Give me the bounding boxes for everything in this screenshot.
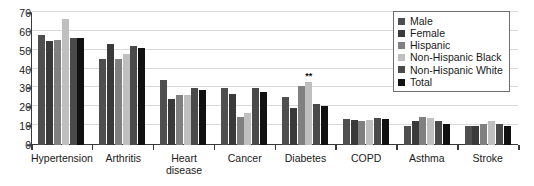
- legend-item[interactable]: Non-Hispanic Black: [398, 52, 503, 64]
- y-tick-label: 10: [5, 121, 31, 132]
- bar: [160, 80, 167, 145]
- bar: [404, 126, 411, 145]
- x-axis-labels: HypertensionArthritisHeart diseaseCancer…: [31, 152, 518, 177]
- bar: [99, 59, 106, 145]
- y-tick-label: 40: [5, 64, 31, 75]
- legend-swatch-icon: [398, 42, 405, 49]
- bar: [115, 59, 122, 145]
- bar: [374, 118, 381, 145]
- bar: [313, 104, 320, 145]
- bar: [472, 126, 479, 145]
- bar: [199, 90, 206, 145]
- legend-item[interactable]: Non-Hispanic White: [398, 64, 503, 76]
- legend-swatch-icon: [398, 79, 405, 86]
- bar-group: [153, 13, 214, 145]
- bar: [435, 121, 442, 146]
- x-axis-label: COPD: [336, 152, 397, 177]
- legend-item[interactable]: Female: [398, 27, 503, 39]
- bar-annotation: **: [305, 72, 312, 81]
- bar: [244, 113, 251, 145]
- legend-label: Male: [410, 16, 433, 27]
- bar: [366, 120, 373, 145]
- y-tick-label: 70: [5, 8, 31, 19]
- bar: [298, 86, 305, 145]
- x-tick-mark: [214, 145, 216, 150]
- bar: [229, 94, 236, 145]
- bar: [130, 46, 137, 145]
- legend-label: Non-Hispanic White: [410, 65, 503, 76]
- bar: [54, 40, 61, 145]
- y-tick-label: 50: [5, 45, 31, 56]
- y-tick-label: 0: [5, 140, 31, 151]
- bar: [38, 35, 45, 145]
- bar: [70, 38, 77, 145]
- bar: [184, 95, 191, 145]
- bar: [191, 88, 198, 145]
- x-axis-label: Asthma: [397, 152, 458, 177]
- bar-group: [335, 13, 396, 145]
- y-tick-label: 30: [5, 83, 31, 94]
- legend-label: Total: [410, 77, 432, 88]
- bar: [480, 124, 487, 145]
- bar: [260, 92, 267, 145]
- bar: [358, 121, 365, 146]
- y-tick-label: 20: [5, 102, 31, 113]
- bar: [488, 121, 495, 146]
- x-axis-ticks: [31, 145, 518, 150]
- legend-item[interactable]: Male: [398, 15, 503, 27]
- legend-swatch-icon: [398, 30, 405, 37]
- x-tick-mark: [457, 145, 459, 150]
- bar: [412, 121, 419, 145]
- legend-label: Female: [410, 28, 445, 39]
- legend-item[interactable]: Total: [398, 76, 503, 88]
- legend-swatch-icon: [398, 54, 405, 61]
- x-tick-mark: [396, 145, 398, 150]
- x-tick-mark: [518, 145, 520, 150]
- legend-label: Non-Hispanic Black: [410, 52, 502, 63]
- legend: MaleFemaleHispanicNon-Hispanic BlackNon-…: [393, 11, 510, 92]
- bar: [46, 41, 53, 145]
- bar: [382, 119, 389, 145]
- bar: [321, 106, 328, 145]
- bar-group: **: [275, 13, 336, 145]
- x-tick-mark: [92, 145, 94, 150]
- bar: [282, 97, 289, 145]
- bar: [427, 118, 434, 145]
- bar-group: [31, 13, 92, 145]
- bar: **: [305, 82, 312, 145]
- bar: [252, 88, 259, 145]
- bar: [176, 95, 183, 145]
- x-axis-label: Stroke: [457, 152, 518, 177]
- bar: [496, 124, 503, 145]
- bar: [62, 19, 69, 145]
- x-axis-label: Hypertension: [31, 152, 93, 177]
- bar: [290, 108, 297, 145]
- legend-swatch-icon: [398, 18, 405, 25]
- x-tick-mark: [335, 145, 337, 150]
- bar-group: [92, 13, 153, 145]
- bar: [168, 99, 175, 145]
- y-tick-label: 60: [5, 27, 31, 38]
- x-tick-mark: [31, 145, 33, 150]
- x-tick-mark: [275, 145, 277, 150]
- legend-label: Hispanic: [410, 40, 450, 51]
- x-axis-label: Arthritis: [93, 152, 154, 177]
- x-tick-mark: [153, 145, 155, 150]
- bar: [221, 88, 228, 145]
- bar: [443, 124, 450, 145]
- bar: [351, 120, 358, 145]
- bar-chart: 706050403020100 ** HypertensionArthritis…: [0, 0, 534, 186]
- x-axis-label: Cancer: [214, 152, 275, 177]
- bar: [343, 119, 350, 145]
- bar: [77, 38, 84, 145]
- x-axis-label: Diabetes: [275, 152, 336, 177]
- bar: [107, 44, 114, 145]
- bar: [419, 117, 426, 145]
- x-axis-label: Heart disease: [154, 152, 215, 177]
- bar: [504, 126, 511, 145]
- bar: [237, 117, 244, 145]
- bar: [138, 48, 145, 145]
- bar: [123, 54, 130, 145]
- legend-item[interactable]: Hispanic: [398, 39, 503, 51]
- bar-group: [214, 13, 275, 145]
